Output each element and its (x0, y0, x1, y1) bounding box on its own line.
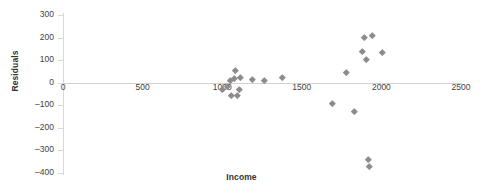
data-point (351, 108, 357, 114)
data-point (361, 34, 367, 40)
y-axis-tick-label: –200 (8, 122, 54, 132)
y-axis-tick-label: –300 (8, 144, 54, 154)
y-axis-title: Residuals (10, 35, 20, 107)
x-axis-tick-label: 1500 (280, 82, 324, 92)
x-axis-tick-label: 500 (121, 82, 165, 92)
x-axis-tick-label: 2000 (359, 82, 403, 92)
data-point (237, 74, 243, 80)
y-axis-tick (58, 150, 64, 151)
y-axis-tick-label: 300 (8, 9, 54, 19)
data-point (369, 32, 375, 38)
data-point (249, 76, 255, 82)
scatter-chart: –400–300–200–1000100200300 0500100015002… (0, 0, 483, 190)
data-point (365, 156, 371, 162)
data-point (343, 69, 349, 75)
y-axis-tick (58, 38, 64, 39)
data-point (279, 74, 285, 80)
data-point (359, 48, 365, 54)
data-point (232, 67, 238, 73)
y-axis-tick (58, 128, 64, 129)
x-axis-tick-label: 0 (41, 82, 85, 92)
x-axis-title: Income (0, 172, 483, 182)
x-axis-tick-label: 2500 (439, 82, 483, 92)
data-point (234, 92, 240, 98)
data-point (363, 56, 369, 62)
y-axis-tick (58, 60, 64, 61)
data-point (379, 49, 385, 55)
y-axis-tick (58, 105, 64, 106)
y-axis-tick (58, 15, 64, 16)
plot-area: –400–300–200–1000100200300 0500100015002… (0, 0, 483, 190)
data-point (329, 100, 335, 106)
data-point (366, 163, 372, 169)
